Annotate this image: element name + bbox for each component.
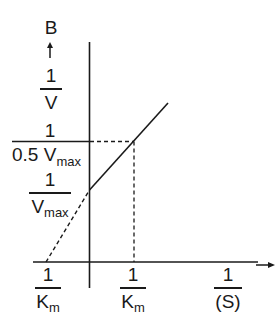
- x-tick-left-den-sub: m: [49, 300, 60, 315]
- x-tick-left-km: 1 Km: [34, 265, 62, 316]
- x-tick-right-den-main: K: [121, 291, 134, 312]
- fraction-bar: [40, 88, 62, 90]
- panel-label: B: [42, 18, 60, 37]
- fraction-bar: [214, 287, 242, 289]
- y-tick-half-vmax-denominator: 0.5 Vmax: [12, 145, 90, 168]
- y-tick-vmax: 1 Vmax: [28, 170, 72, 223]
- x-tick-right-denominator: Km: [121, 292, 145, 316]
- y-axis-label-numerator: 1: [46, 66, 57, 86]
- x-axis-label-denominator: (S): [215, 292, 240, 312]
- x-axis-label-numerator: 1: [223, 265, 234, 285]
- y-tick-half-vmax-den-main: 0.5 V: [12, 144, 56, 165]
- fraction-bar: [120, 287, 146, 289]
- x-tick-left-numerator: 1: [43, 265, 54, 285]
- y-tick-vmax-numerator: 1: [45, 170, 56, 190]
- right-arrow-icon: [256, 262, 275, 268]
- x-axis-label: 1 (S): [212, 265, 244, 312]
- x-tick-right-km: 1 Km: [119, 265, 147, 316]
- y-tick-half-vmax-numerator: 1: [40, 121, 60, 140]
- y-tick-half-vmax-den-sub: max: [56, 154, 81, 169]
- data-line-solid: [90, 103, 169, 190]
- fraction-bar: [35, 287, 61, 289]
- fraction-bar: [29, 192, 71, 194]
- up-arrow-icon: [47, 42, 53, 58]
- x-tick-right-den-sub: m: [134, 300, 145, 315]
- y-axis-label-denominator: V: [45, 93, 58, 113]
- y-axis-label: 1 V: [38, 66, 64, 113]
- x-tick-left-den-main: K: [36, 291, 49, 312]
- x-tick-left-denominator: Km: [36, 292, 60, 316]
- y-tick-vmax-denominator: Vmax: [31, 197, 68, 223]
- x-tick-right-numerator: 1: [128, 265, 139, 285]
- y-tick-vmax-den-sub: max: [44, 205, 69, 220]
- y-tick-vmax-den-main: V: [31, 196, 44, 217]
